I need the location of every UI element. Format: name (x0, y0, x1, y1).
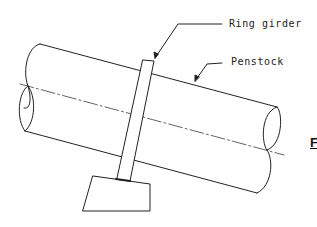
ring-girder (117, 60, 154, 181)
penstock-label: Penstock (231, 57, 284, 67)
ring-girder-leader (154, 24, 222, 58)
penstock-diagram (0, 0, 317, 227)
figure-caption-fragment: F (310, 136, 317, 149)
ring-girder-label: Ring girder (229, 19, 302, 29)
penstock-leader (195, 63, 222, 81)
support-pier (83, 176, 150, 211)
centerline (20, 84, 284, 155)
